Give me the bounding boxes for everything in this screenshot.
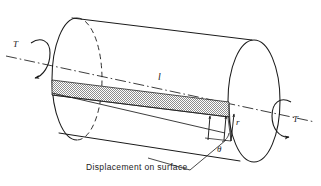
displacement-caption: Displacement on surface [86,163,188,172]
applied-torque-arrow-right [272,100,291,137]
torsion-figure: T T l r θ Displacement on surface [0,0,321,186]
radius-indicator [229,104,234,141]
applied-torque-arrow-left [31,40,50,78]
displaced-surface-band [52,80,229,133]
torque-label-left: T [13,40,18,49]
twist-angle-label: θ [217,145,221,154]
surface-displacement-arrow [208,116,226,140]
length-label: l [158,72,161,82]
torque-label-right: T [293,115,298,124]
radius-label: r [236,118,240,127]
torsion-diagram-canvas [0,0,321,186]
far-end-face [228,40,280,162]
near-end-face [52,18,102,140]
